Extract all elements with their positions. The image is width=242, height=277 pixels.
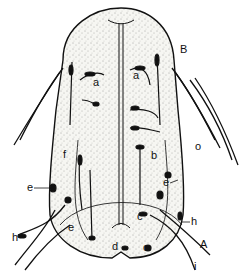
figure-label-b: b	[151, 150, 157, 161]
figure-label-f: f	[63, 149, 66, 160]
figure-label-e: e	[163, 177, 169, 188]
spinal-cord-diagram	[0, 0, 242, 277]
figure-label-c: c	[137, 211, 143, 222]
figure-label-o: o	[195, 141, 201, 152]
figure-label-h: h	[191, 216, 197, 227]
figure-label-i: i	[194, 261, 196, 272]
figure-label-e: e	[68, 222, 74, 233]
figure-label-B: B	[180, 44, 187, 55]
figure-label-a: a	[133, 70, 139, 81]
figure-label-h: h	[12, 232, 18, 243]
figure-label-e: e	[27, 182, 33, 193]
figure-label-o: o	[143, 242, 149, 253]
figure-label-A: A	[200, 239, 207, 250]
figure-label-d: d	[112, 241, 118, 252]
figure-label-a: a	[93, 77, 99, 88]
